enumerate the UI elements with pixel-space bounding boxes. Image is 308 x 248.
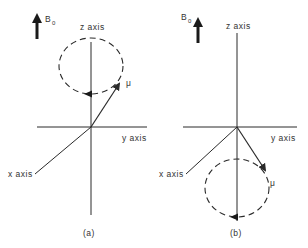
x-axis-line xyxy=(35,127,91,174)
x-axis-label: x axis xyxy=(159,169,184,179)
moment-vector xyxy=(237,127,265,170)
field-subscript: 0 xyxy=(52,20,56,26)
field-label: B xyxy=(45,14,51,24)
panel-b: B 0 z axis y axis x axis μ (b) xyxy=(159,12,297,238)
field-arrow-icon xyxy=(32,13,42,39)
z-axis-label: z axis xyxy=(80,22,105,32)
y-axis-label: y axis xyxy=(122,133,147,143)
precession-diagram: B 0 z axis y axis x axis μ (a) xyxy=(0,0,308,248)
field-label: B xyxy=(181,12,187,22)
field-subscript: 0 xyxy=(188,18,192,24)
z-axis-label: z axis xyxy=(226,21,251,31)
field-arrow-icon xyxy=(193,17,203,43)
y-axis-label: y axis xyxy=(271,133,296,143)
caption-b: (b) xyxy=(230,228,242,238)
caption-a: (a) xyxy=(83,228,95,238)
moment-label: μ xyxy=(126,78,131,88)
moment-label: μ xyxy=(270,178,275,188)
panel-a: B 0 z axis y axis x axis μ (a) xyxy=(8,13,147,238)
x-axis-label: x axis xyxy=(8,169,33,179)
x-axis-line xyxy=(186,127,237,174)
moment-vector xyxy=(91,84,119,127)
precession-direction-icon xyxy=(84,91,92,98)
diagram-svg: B 0 z axis y axis x axis μ (a) xyxy=(0,0,308,248)
precession-direction-icon xyxy=(230,214,238,221)
